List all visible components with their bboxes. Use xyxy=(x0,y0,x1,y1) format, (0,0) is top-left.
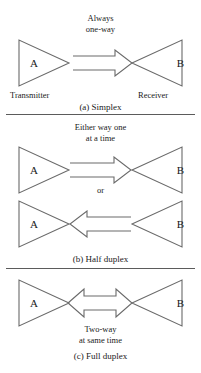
node-b-simplex-label: B xyxy=(130,38,197,88)
node-a-half-bottom: A xyxy=(17,199,71,249)
divider-1 xyxy=(6,114,195,115)
arrow-half-bottom-left xyxy=(69,210,131,238)
caption-full-duplex: (c) Full duplex xyxy=(0,351,201,362)
caption-half-duplex: (b) Half duplex xyxy=(0,254,201,265)
half-annotation-line1: Either way one xyxy=(0,122,201,133)
panel-simplex: Always one-way A B Transmitter xyxy=(0,0,201,116)
panel-half-duplex: Either way one at a time A B or xyxy=(0,116,201,269)
node-b-half-bottom-label: B xyxy=(130,199,197,249)
full-annotation-line2: at same time xyxy=(0,335,201,346)
node-b-half-bottom: B xyxy=(130,199,184,249)
caption-simplex: (a) Simplex xyxy=(0,102,201,113)
transmission-modes-figure: Always one-way A B Transmitter xyxy=(0,0,201,373)
simplex-annotation-line1: Always xyxy=(0,13,201,24)
arrow-half-top-right xyxy=(70,156,132,184)
node-a-simplex: A xyxy=(17,38,71,88)
half-connector-or: or xyxy=(0,185,201,196)
arrow-simplex-right xyxy=(73,49,133,77)
node-b-simplex: B xyxy=(130,38,184,88)
label-receiver: Receiver xyxy=(138,90,168,100)
label-transmitter: Transmitter xyxy=(10,90,49,100)
panel-full-duplex: A B Two-way at same time (c) Full duplex xyxy=(0,269,201,373)
node-a-full: A xyxy=(17,278,71,328)
node-b-full-label: B xyxy=(130,278,197,328)
full-annotation-line1: Two-way xyxy=(0,324,201,335)
node-b-full: B xyxy=(130,278,184,328)
half-annotation-line2: at a time xyxy=(0,133,201,144)
simplex-annotation-line2: one-way xyxy=(0,24,201,35)
arrow-full-duplex-bidirectional xyxy=(67,287,133,319)
